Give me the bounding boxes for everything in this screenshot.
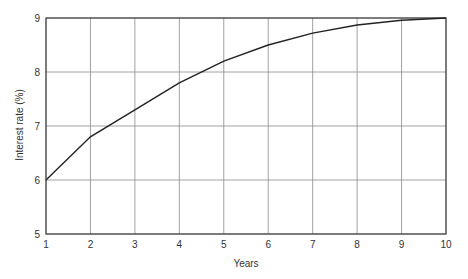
x-tick-label: 6 [265,239,271,250]
y-tick-label: 6 [34,175,40,186]
x-tick-label: 8 [354,239,360,250]
interest-rate-line [46,18,446,180]
x-tick-label: 5 [221,239,227,250]
x-tick-label: 1 [43,239,49,250]
line-chart: 56789 12345678910 Years Interest rate (%… [0,0,468,279]
x-tick-label: 2 [88,239,94,250]
y-axis-tick-labels: 56789 [34,13,40,240]
y-axis-title: Interest rate (%) [14,89,25,161]
y-tick-label: 8 [34,67,40,78]
y-tick-label: 9 [34,13,40,24]
y-tick-label: 7 [34,121,40,132]
x-axis-title: Years [233,258,258,269]
x-tick-label: 3 [132,239,138,250]
y-tick-label: 5 [34,229,40,240]
x-tick-label: 9 [399,239,405,250]
x-tick-label: 10 [440,239,452,250]
grid-lines [46,18,446,234]
x-tick-label: 4 [177,239,183,250]
x-tick-label: 7 [310,239,316,250]
x-axis-tick-labels: 12345678910 [43,239,452,250]
